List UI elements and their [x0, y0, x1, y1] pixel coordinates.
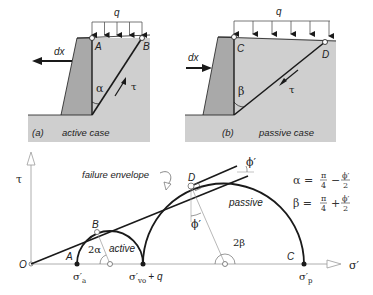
svg-text:+: +: [331, 197, 340, 210]
movement-arrow-passive: [186, 64, 212, 72]
backfill-surface-active: [77, 35, 150, 38]
phi-label-lower: ϕ′: [191, 218, 201, 231]
point-A-mohr-label: A: [65, 251, 73, 262]
point-D-mohr-label: D: [188, 172, 195, 183]
active-angle-arc: [100, 255, 106, 264]
envelope-pointer-head: [164, 182, 171, 190]
tau-axis-arrow-icon: [27, 152, 35, 165]
point-C-mohr-label: C: [287, 251, 295, 262]
passive-mohr-circle: [143, 184, 304, 265]
point-C-label: C: [237, 43, 245, 54]
retaining-wall-active: [61, 38, 92, 115]
sigma-p-marker: [302, 262, 307, 267]
sigma-axis-arrow-icon: [327, 260, 341, 268]
active-angle-label: 2α: [88, 244, 101, 255]
svg-text:2: 2: [343, 204, 348, 213]
envelope-label: failure envelope: [82, 169, 149, 180]
sigma-v0q-label: σ′vo+ q: [129, 271, 163, 285]
svg-text:β =: β =: [293, 197, 312, 210]
sigma-axis-label: σ′: [349, 259, 360, 272]
phi-label-top: ϕ′: [246, 156, 256, 169]
surcharge-active: [92, 22, 142, 35]
svg-text:α =: α =: [293, 174, 313, 187]
origin-label: O: [19, 259, 27, 270]
svg-text:π: π: [321, 194, 326, 203]
svg-text:σ′vo+ q: σ′vo+ q: [129, 271, 163, 285]
panel-caption-passive: passive case: [258, 127, 314, 138]
shear-label-active: τ: [131, 81, 137, 92]
sigma-p-label: σ′p: [299, 271, 313, 285]
passive-center-marker: [223, 262, 228, 267]
active-center-marker: [108, 262, 113, 267]
equation-beta: β = π 4 + ϕ′ 2: [293, 194, 350, 213]
sigma-a-label: σ′a: [73, 271, 86, 285]
svg-text:σ′a: σ′a: [73, 271, 86, 285]
svg-text:ϕ′: ϕ′: [342, 194, 349, 203]
shear-label-passive: τ: [289, 84, 295, 95]
point-B-marker: [140, 36, 145, 41]
surcharge-label-passive: q: [276, 6, 282, 17]
active-circle-label: active: [109, 243, 136, 254]
point-D-label: D: [322, 49, 329, 60]
tau-axis-label: τ: [16, 173, 22, 186]
svg-text:4: 4: [321, 204, 326, 213]
point-D-marker: [323, 40, 328, 45]
svg-text:ϕ′: ϕ′: [342, 171, 349, 180]
passive-angle-label: 2β: [233, 237, 245, 248]
panel-active: q A B dx α τ (a) active case: [28, 7, 150, 142]
point-B-mohr-label: B: [92, 219, 99, 230]
equation-alpha: α = π 4 − ϕ′ 2: [293, 171, 350, 190]
svg-text:π: π: [321, 171, 326, 180]
sigma-v0q-marker: [141, 262, 146, 267]
svg-text:2: 2: [343, 181, 348, 190]
passive-circle-label: passive: [228, 197, 263, 208]
panel-tag-passive: (b): [222, 127, 234, 138]
panel-passive: q C D dx β τ (b) passive case: [185, 6, 336, 142]
angle-label-alpha: α: [96, 82, 104, 95]
phi-arc-lower: [191, 213, 201, 216]
point-B-label: B: [143, 41, 150, 52]
retaining-wall-passive: [203, 37, 234, 115]
sigma-a-marker: [75, 262, 80, 267]
surcharge-label-active: q: [114, 7, 120, 18]
svg-text:4: 4: [321, 181, 326, 190]
point-D-mohr-marker: [188, 183, 194, 189]
movement-label-passive: dx: [188, 52, 200, 63]
surcharge-passive: [234, 21, 330, 36]
panel-tag-active: (a): [32, 127, 44, 138]
point-A-marker: [90, 36, 95, 41]
angle-label-beta: β: [238, 85, 244, 98]
panel-caption-active: active case: [62, 127, 110, 138]
svg-text:−: −: [331, 174, 340, 187]
movement-label-active: dx: [54, 46, 66, 57]
point-C-marker: [232, 35, 237, 40]
movement-arrow-active: [32, 57, 72, 65]
mohr-diagram: τ σ′ O ϕ′ A B 2α active D C ϕ′ 2β: [16, 152, 360, 285]
earth-pressure-diagram: q A B dx α τ (a) active case: [0, 0, 373, 295]
svg-text:σ′p: σ′p: [299, 271, 313, 285]
point-B-mohr-marker: [95, 230, 100, 235]
point-A-label: A: [94, 41, 102, 52]
